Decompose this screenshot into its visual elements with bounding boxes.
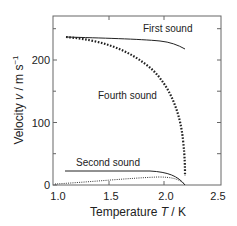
x-axis-label: Temperature T / K: [90, 205, 186, 219]
xtick-label-2.5: 2.5: [210, 190, 225, 202]
first-sound-curve: [66, 37, 185, 49]
fourth-sound-curve: [66, 37, 185, 176]
xtick-label-1.0: 1.0: [50, 190, 65, 202]
ytick-label-200: 200: [32, 54, 50, 66]
fourth-sound-label: Fourth sound: [98, 90, 157, 101]
y-axis-label: Velocity v / m s−1: [11, 55, 26, 145]
second-sound-label: Second sound: [76, 157, 140, 168]
xtick-label-1.5: 1.5: [103, 190, 118, 202]
ytick-label-100: 100: [32, 117, 50, 129]
lower-dotted-curve: [55, 177, 185, 185]
chart: 0 100 200 1.0 1.5 2.0 2.5 Temperature T …: [0, 0, 237, 226]
first-sound-label: First sound: [143, 23, 192, 34]
xtick-label-2.0: 2.0: [158, 190, 173, 202]
second-sound-curve: [65, 171, 185, 185]
ytick-label-0: 0: [44, 179, 50, 191]
